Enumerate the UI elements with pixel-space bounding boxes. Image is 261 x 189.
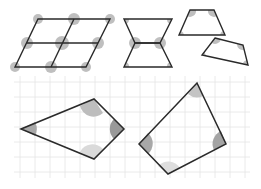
rotated-quadrilateral	[202, 38, 248, 65]
angle-markers	[179, 10, 225, 35]
angle-diagram	[0, 0, 261, 189]
kite	[21, 99, 124, 159]
angle-markers	[202, 38, 248, 65]
parallelogram-tiling	[10, 13, 115, 73]
parallelogram-mask	[15, 19, 110, 67]
square-grid	[14, 76, 250, 178]
angle-top	[80, 99, 103, 117]
hourglass-trapezoids	[124, 19, 172, 67]
trapezoid	[179, 10, 225, 35]
